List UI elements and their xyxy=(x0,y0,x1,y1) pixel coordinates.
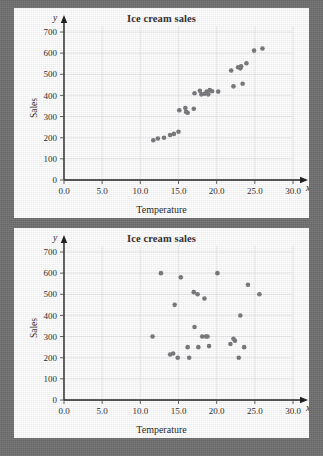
data-point xyxy=(215,271,220,276)
data-point xyxy=(195,292,200,297)
data-point xyxy=(246,282,251,287)
y-tick-label: 200 xyxy=(44,133,58,143)
x-tick-label: 25.0 xyxy=(247,186,263,196)
data-point xyxy=(159,271,164,276)
scatter-plot-bottom: 01002003004005006007000.05.010.015.020.0… xyxy=(14,228,309,438)
y-tick-label: 700 xyxy=(44,247,58,257)
plot-area-bottom: 01002003004005006007000.05.010.015.020.0… xyxy=(14,228,309,438)
y-tick-label: 600 xyxy=(44,48,58,58)
y-tick-label: 400 xyxy=(44,91,58,101)
data-point xyxy=(260,46,265,51)
x-axis-label-top: Temperature xyxy=(14,204,309,215)
y-tick-label: 0 xyxy=(53,395,58,405)
data-point xyxy=(151,138,156,143)
y-tick-label: 0 xyxy=(53,175,58,185)
data-point xyxy=(171,351,176,356)
x-tick-label: 5.0 xyxy=(97,186,109,196)
y-axis-variable: y xyxy=(52,13,58,23)
y-tick-label: 500 xyxy=(44,289,58,299)
scatter-plot-top: 01002003004005006007000.05.010.015.020.0… xyxy=(14,8,309,218)
x-tick-label: 25.0 xyxy=(247,406,263,416)
data-point xyxy=(156,136,161,141)
chart-panel-bottom: Ice cream sales 01002003004005006007000.… xyxy=(14,228,309,438)
data-point xyxy=(229,68,234,73)
x-tick-label: 30.0 xyxy=(285,186,301,196)
y-tick-label: 500 xyxy=(44,69,58,79)
data-point xyxy=(239,64,244,69)
data-point xyxy=(228,342,233,347)
data-point xyxy=(192,91,197,96)
data-point xyxy=(192,325,197,330)
data-point xyxy=(185,110,190,115)
data-point xyxy=(231,84,236,89)
y-axis-label-top: Sales xyxy=(29,78,39,138)
data-point xyxy=(257,292,262,297)
x-axis-label-bottom: Temperature xyxy=(14,424,309,435)
data-point xyxy=(175,355,180,360)
data-point xyxy=(205,334,210,339)
x-tick-label: 0.0 xyxy=(58,186,70,196)
x-tick-label: 10.0 xyxy=(132,406,148,416)
plot-area-top: 01002003004005006007000.05.010.015.020.0… xyxy=(14,8,309,218)
data-point xyxy=(210,89,215,94)
y-tick-label: 400 xyxy=(44,311,58,321)
y-axis-arrow xyxy=(61,235,67,243)
x-tick-label: 30.0 xyxy=(285,406,301,416)
data-point xyxy=(216,89,221,94)
data-point xyxy=(207,344,212,349)
data-point xyxy=(172,303,177,308)
data-point xyxy=(191,106,196,111)
data-point xyxy=(172,132,177,137)
x-tick-label: 10.0 xyxy=(132,186,148,196)
y-tick-label: 700 xyxy=(44,27,58,37)
data-point xyxy=(187,355,192,360)
x-axis-variable: x xyxy=(305,403,309,413)
y-tick-label: 100 xyxy=(44,374,58,384)
x-tick-label: 5.0 xyxy=(97,406,109,416)
chart-panel-top: Ice cream sales 01002003004005006007000.… xyxy=(14,8,309,218)
x-tick-label: 15.0 xyxy=(171,406,187,416)
data-point xyxy=(178,275,183,280)
y-tick-label: 200 xyxy=(44,353,58,363)
x-tick-label: 0.0 xyxy=(58,406,70,416)
data-point xyxy=(244,61,249,66)
data-point xyxy=(177,108,182,113)
y-tick-label: 100 xyxy=(44,154,58,164)
data-point xyxy=(150,334,155,339)
data-point xyxy=(162,135,167,140)
x-tick-label: 15.0 xyxy=(171,186,187,196)
data-point xyxy=(252,48,257,53)
y-axis-variable: y xyxy=(52,233,58,243)
y-axis-label-bottom: Sales xyxy=(29,298,39,358)
y-axis-arrow xyxy=(61,15,67,23)
data-point xyxy=(202,296,207,301)
data-point xyxy=(237,355,242,360)
data-point xyxy=(206,92,211,97)
x-tick-label: 20.0 xyxy=(209,186,225,196)
data-point xyxy=(242,345,247,350)
y-tick-label: 300 xyxy=(44,112,58,122)
x-axis-variable: x xyxy=(305,183,309,193)
data-point xyxy=(196,345,201,350)
data-point xyxy=(183,106,188,111)
data-point xyxy=(240,82,245,87)
data-point xyxy=(238,313,243,318)
data-point xyxy=(233,339,238,344)
data-point xyxy=(176,129,181,134)
x-tick-label: 20.0 xyxy=(209,406,225,416)
y-tick-label: 600 xyxy=(44,268,58,278)
data-point xyxy=(185,345,190,350)
y-tick-label: 300 xyxy=(44,332,58,342)
